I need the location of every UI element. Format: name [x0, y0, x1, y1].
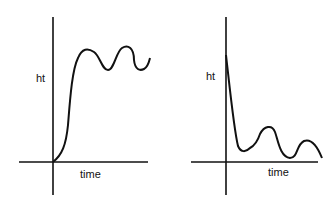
- left-chart: ht time: [19, 17, 150, 195]
- right-chart: ht time: [191, 17, 322, 195]
- left-curve: [53, 47, 150, 163]
- left-xlabel: time: [80, 168, 101, 180]
- left-ylabel: ht: [36, 72, 45, 84]
- right-curve: [226, 55, 322, 158]
- right-ylabel: ht: [206, 70, 215, 82]
- right-xlabel: time: [268, 166, 289, 178]
- chart-canvas: ht time ht time: [0, 0, 336, 207]
